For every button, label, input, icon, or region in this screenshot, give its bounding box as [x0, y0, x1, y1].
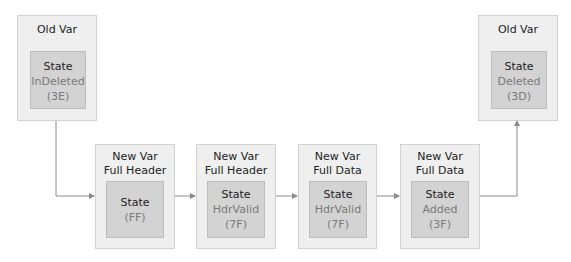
state-code: (3E): [31, 89, 85, 104]
state-box: State InDeleted (3E): [30, 51, 86, 109]
state-name: HdrValid: [208, 202, 264, 217]
edge-new4-to-old-right: [479, 121, 517, 196]
state-name: Added: [412, 202, 468, 217]
state-box: State HdrValid (7F): [207, 181, 265, 238]
node-title-line1: New Var: [299, 150, 376, 164]
node-old-var-left: Old Var State InDeleted (3E): [17, 15, 97, 121]
node-title: Old Var: [479, 23, 557, 37]
state-label: State: [412, 188, 468, 202]
state-code: (3D): [492, 89, 546, 104]
node-new-var-1: New Var Full Header State (FF): [95, 144, 175, 249]
node-new-var-2: New Var Full Header State HdrValid (7F): [196, 144, 276, 249]
state-label: State: [107, 196, 163, 210]
node-title-line2: Full Data: [401, 164, 479, 178]
state-name: HdrValid: [310, 202, 366, 217]
state-code: (7F): [208, 217, 264, 232]
state-code: (FF): [107, 210, 163, 225]
edge-old-left-to-new1: [56, 120, 94, 196]
state-label: State: [31, 60, 85, 74]
state-label: State: [492, 60, 546, 74]
state-label: State: [310, 188, 366, 202]
state-name: Deleted: [492, 74, 546, 89]
state-code: (7F): [310, 217, 366, 232]
state-code: (3F): [412, 217, 468, 232]
node-new-var-3: New Var Full Data State HdrValid (7F): [298, 144, 377, 249]
node-title: Old Var: [18, 23, 96, 37]
node-title-line1: New Var: [96, 150, 174, 164]
node-old-var-right: Old Var State Deleted (3D): [478, 15, 558, 121]
state-box: State HdrValid (7F): [309, 181, 367, 238]
state-box: State Deleted (3D): [491, 51, 547, 109]
node-title-line1: New Var: [197, 150, 275, 164]
state-label: State: [208, 188, 264, 202]
state-box: State (FF): [106, 181, 164, 238]
node-title-line2: Full Header: [197, 164, 275, 178]
node-title-line2: Full Data: [299, 164, 376, 178]
state-name: InDeleted: [31, 74, 85, 89]
node-new-var-4: New Var Full Data State Added (3F): [400, 144, 480, 249]
node-title-line2: Full Header: [96, 164, 174, 178]
node-title-line1: New Var: [401, 150, 479, 164]
state-box: State Added (3F): [411, 181, 469, 238]
